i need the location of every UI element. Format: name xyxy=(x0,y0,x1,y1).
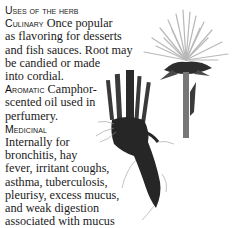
culinary-text-line: as flavoring for desserts xyxy=(5,30,165,43)
book-page: Uses of the herb Culinary Once popular a… xyxy=(0,0,234,228)
aromatic-text-line: scented oil used in xyxy=(5,96,165,109)
culinary-label: Culinary xyxy=(5,17,44,29)
medicinal-text-line: associated with mucus xyxy=(5,215,165,228)
aromatic-label: Aromatic xyxy=(5,83,45,95)
culinary-text-line: Once popular xyxy=(47,16,113,30)
aromatic-text-line: Camphor- xyxy=(48,82,97,96)
medicinal-text-line: fever, irritant coughs, xyxy=(5,162,165,175)
medicinal-text-line: asthma, tuberculosis, xyxy=(5,176,165,189)
culinary-text-line: and fish sauces. Root may xyxy=(5,44,165,57)
herb-uses-text: Uses of the herb Culinary Once popular a… xyxy=(5,4,165,228)
aromatic-text-line: perfumery. xyxy=(5,110,165,123)
herb-stem-illustration xyxy=(178,72,198,140)
